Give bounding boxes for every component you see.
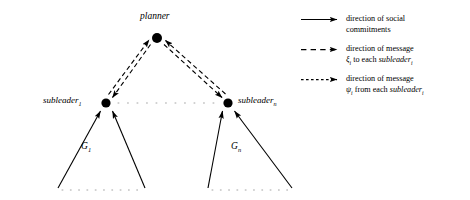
node-planner xyxy=(152,33,162,43)
diagram-canvas: planner subleader1 subleadern G1 Gn dire… xyxy=(0,0,470,200)
legend-entry-social-commitments: direction of social commitments xyxy=(346,14,405,35)
legend-line-2-italic-sub: i xyxy=(422,89,424,95)
legend-entry-message-xi: direction of message ξi to each subleade… xyxy=(346,44,414,66)
legend-line-2-italic: subleader xyxy=(390,85,422,94)
node-label-subleader1: subleader1 xyxy=(43,96,82,107)
message-arrows-right xyxy=(164,41,226,98)
legend-line-1: direction of social xyxy=(346,14,405,25)
arrow-gn-left-to-subleadern xyxy=(208,111,223,188)
legend-line-2: commitments xyxy=(346,25,405,36)
legend-line-2-italic-sub: i xyxy=(411,59,413,65)
legend-entry-message-psi: direction of message ψi from each sublea… xyxy=(346,74,424,96)
legend-line-1: direction of message xyxy=(346,44,414,55)
arrow-g1-right-to-subleader1 xyxy=(113,111,146,188)
node-label-subleadern: subleadern xyxy=(238,96,277,107)
group-label-g1: G1 xyxy=(81,142,91,153)
legend-line-2-mid: from each xyxy=(353,85,390,94)
arrow-subleader1-to-planner xyxy=(109,40,150,95)
arrow-planner-to-subleader1 xyxy=(113,45,151,98)
group-label-gn: Gn xyxy=(231,142,241,153)
legend-line-2: ξi to each subleaderi xyxy=(346,55,414,67)
node-subleadern xyxy=(223,98,232,107)
message-arrows-left xyxy=(109,40,151,98)
commitment-arrows-gn xyxy=(208,111,292,190)
arrow-subleadern-to-planner xyxy=(166,41,226,95)
arrow-gn-right-to-subleadern xyxy=(235,111,293,188)
commitment-arrows-g1 xyxy=(58,111,145,190)
legend-line-2: ψi from each subleaderi xyxy=(346,85,424,97)
node-label-planner: planner xyxy=(140,12,170,22)
legend-line-2-italic: subleader xyxy=(379,55,411,64)
node-subleader1 xyxy=(101,98,110,107)
arrow-g1-left-to-subleader1 xyxy=(58,111,101,188)
legend-line-2-mid: to each xyxy=(351,55,379,64)
arrow-planner-to-subleadern xyxy=(164,45,222,98)
legend-line-1: direction of message xyxy=(346,74,424,85)
